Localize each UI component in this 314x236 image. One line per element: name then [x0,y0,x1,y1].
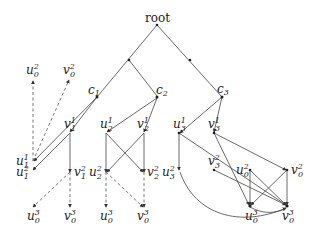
svg-text:c3: c3 [217,82,229,97]
cluster-1-edges [33,80,97,207]
svg-text:u21: u21 [16,164,29,181]
svg-text:v22: v22 [147,164,159,181]
svg-text:v11: v11 [64,116,76,133]
svg-text:c1: c1 [88,83,100,98]
svg-text:u20: u20 [236,162,249,179]
cluster-3-edges [179,97,287,217]
cluster-2-edges [106,98,157,207]
svg-text:v30: v30 [282,208,294,225]
svg-text:u13: u13 [173,116,186,133]
svg-text:v30: v30 [137,208,149,225]
cluster-labels: c1 c2 c3 [88,82,229,98]
svg-text:u12: u12 [100,116,113,133]
svg-text:v20: v20 [63,62,75,79]
svg-text:v12: v12 [137,116,149,133]
svg-text:v30: v30 [64,208,76,225]
svg-text:u22: u22 [89,164,102,181]
svg-text:u30: u30 [100,208,113,225]
svg-text:v13: v13 [208,116,220,133]
svg-text:c2: c2 [156,83,168,98]
svg-text:u30: u30 [27,208,40,225]
svg-text:u30: u30 [245,208,258,225]
tree-diagram: root c1 c2 c3 u20 v20 u11 v11 u21 v21 u3… [0,0,314,236]
svg-text:v20: v20 [291,162,303,179]
svg-text:u20: u20 [26,62,39,79]
svg-text:u23: u23 [162,164,175,181]
node-dots [96,24,289,208]
root-label: root [145,11,170,25]
svg-text:v23: v23 [208,153,220,170]
svg-text:v21: v21 [74,164,86,181]
